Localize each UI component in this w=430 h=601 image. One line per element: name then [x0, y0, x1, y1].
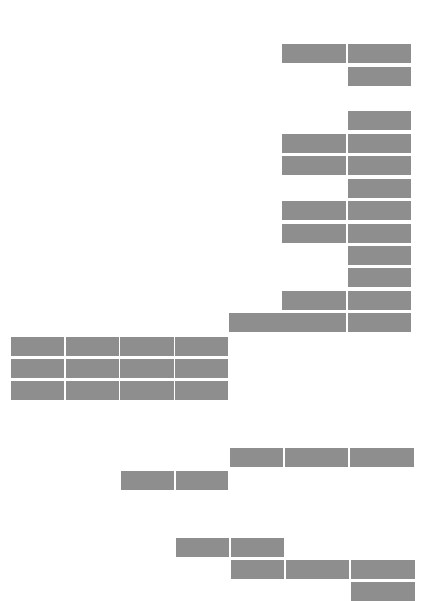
redacted-block	[282, 313, 346, 332]
redacted-block	[350, 448, 414, 467]
redacted-block	[282, 156, 346, 175]
redacted-block	[285, 448, 348, 467]
redacted-block	[282, 291, 346, 310]
redacted-block	[231, 538, 284, 557]
redacted-block	[175, 337, 228, 356]
redacted-block	[348, 179, 411, 198]
redacted-block	[348, 67, 411, 86]
redacted-block	[348, 44, 411, 63]
redacted-block	[282, 44, 346, 63]
redacted-block	[348, 291, 411, 310]
redacted-block	[66, 381, 119, 400]
redacted-block	[282, 201, 346, 220]
redacted-block	[120, 337, 174, 356]
redacted-block	[351, 582, 415, 601]
redacted-block	[176, 471, 228, 490]
redacted-block	[348, 201, 411, 220]
redacted-block	[66, 337, 119, 356]
redacted-block	[11, 337, 64, 356]
redacted-block	[348, 111, 411, 130]
redacted-block	[121, 471, 174, 490]
redacted-block	[348, 268, 411, 287]
redacted-block	[230, 448, 283, 467]
redacted-block	[351, 560, 415, 579]
redacted-block	[286, 560, 349, 579]
redacted-block	[348, 134, 411, 153]
redacted-block	[231, 560, 284, 579]
redacted-block	[282, 224, 346, 243]
redacted-block	[66, 359, 119, 378]
redacted-block	[348, 313, 411, 332]
redacted-block	[348, 246, 411, 265]
redacted-block	[120, 359, 174, 378]
redacted-block	[229, 313, 282, 332]
redacted-block	[175, 359, 228, 378]
redacted-block	[348, 156, 411, 175]
redacted-block	[175, 381, 228, 400]
redacted-block	[176, 538, 229, 557]
redacted-block	[11, 359, 64, 378]
redacted-block	[282, 134, 346, 153]
redacted-block	[120, 381, 174, 400]
redacted-block	[11, 381, 64, 400]
redacted-block	[348, 224, 411, 243]
